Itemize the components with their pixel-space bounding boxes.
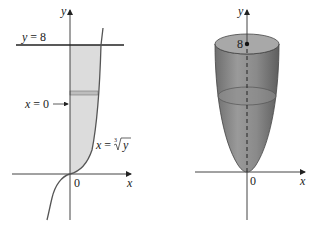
cube-root-index: 3 bbox=[114, 137, 117, 143]
slice-strip bbox=[70, 91, 98, 95]
top-point-label: 8 bbox=[237, 37, 243, 51]
y-axis-label-right: y bbox=[237, 4, 244, 18]
point-8 bbox=[245, 42, 249, 46]
x-axis-label-right: x bbox=[299, 174, 306, 188]
origin-label-right: 0 bbox=[250, 174, 256, 188]
shaded-region bbox=[70, 45, 101, 174]
radicand: y bbox=[122, 138, 129, 152]
line-label: y = 8 bbox=[21, 30, 46, 44]
curve-label: x = bbox=[95, 138, 111, 152]
cross-section-disk bbox=[218, 87, 276, 105]
left-figure: y y = 8 x = 0 x = 3 y 0 x bbox=[12, 4, 133, 220]
x-axis-label-left: x bbox=[126, 176, 133, 190]
origin-label-left: 0 bbox=[74, 176, 80, 190]
y-axis-label-left: y bbox=[60, 4, 67, 18]
figure-canvas: y y = 8 x = 0 x = 3 y 0 x 8 y 0 x bbox=[0, 0, 324, 234]
boundary-label: x = 0 bbox=[24, 97, 49, 111]
right-figure: 8 y 0 x bbox=[195, 4, 306, 220]
